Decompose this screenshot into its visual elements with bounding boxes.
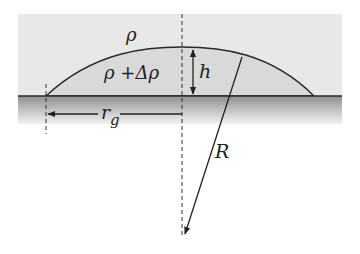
ground-region: [18, 96, 342, 124]
diagram-canvas: ρ ρ +Δρ h rg R: [0, 0, 360, 254]
inner-density-label: ρ +Δρ: [103, 62, 159, 83]
height-label: h: [199, 60, 211, 82]
curvature-radius-label: R: [214, 140, 229, 162]
outer-density-label: ρ: [125, 24, 137, 45]
